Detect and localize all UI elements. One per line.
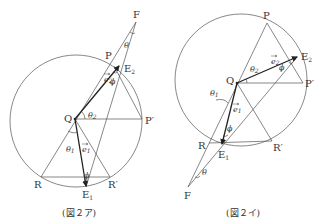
- point-q-a: [74, 118, 77, 121]
- caption-a: (図２ア): [62, 208, 96, 218]
- label-vec-e2-a: e2: [104, 75, 113, 84]
- label-e1-a: E1: [82, 189, 93, 201]
- label-p-a: P: [105, 50, 112, 61]
- label-q-a: Q: [64, 113, 72, 124]
- label-f-a: F: [133, 9, 140, 20]
- label-phi-bot-i: ϕ: [227, 124, 233, 133]
- label-r-i: R: [198, 140, 206, 151]
- label-vec-e1-i: e1: [233, 105, 242, 114]
- label-e2-a: E2: [124, 63, 135, 75]
- arc-theta2: [82, 112, 85, 119]
- label-theta2-i: θ2: [250, 65, 259, 74]
- arc-theta1: [68, 131, 77, 133]
- label-f-i: F: [184, 190, 191, 201]
- line-f-p: [188, 23, 267, 187]
- caption-i: (図２イ): [226, 208, 260, 218]
- arc-theta-f-i: [195, 176, 200, 178]
- label-theta-a: θ: [124, 41, 129, 50]
- label-r-a: R: [34, 179, 42, 190]
- label-pprime-a: P′: [145, 115, 155, 126]
- line-q-rprime-i: [237, 83, 272, 141]
- label-phi-bot-a: ϕ: [84, 171, 90, 180]
- label-e1-i: E1: [218, 149, 229, 161]
- label-q-i: Q: [226, 75, 234, 86]
- arc-theta1-i: [216, 99, 228, 103]
- label-vec-e2-i: e2: [271, 57, 280, 66]
- label-theta1-i: θ1: [210, 89, 219, 98]
- vector-e2-a: [75, 66, 119, 119]
- point-q-i: [236, 82, 239, 85]
- label-p-i: P: [263, 10, 270, 21]
- vector-overarrows: [82, 55, 277, 145]
- label-theta2-a: θ2: [88, 111, 97, 120]
- label-vec-e1-a: e1: [82, 145, 91, 154]
- figure-a: [10, 22, 142, 187]
- label-rprime-a: R′: [108, 179, 119, 190]
- diagram-canvas: F P E2 Q P′ R R′ E1 θ θ2 θ1 ϕ ϕ e2 e1 (図…: [0, 0, 322, 224]
- label-theta1-a: θ1: [66, 145, 75, 154]
- vector-e2-i: [237, 57, 297, 83]
- line-p-e2-side: [267, 23, 303, 83]
- label-theta-i: θ: [202, 168, 207, 177]
- figure-i: [175, 14, 307, 187]
- circle-i: [175, 14, 307, 146]
- label-e2-i: E2: [301, 51, 312, 63]
- label-phi-top-i: ϕ: [279, 63, 285, 72]
- label-rprime-i: R′: [273, 142, 284, 153]
- label-pprime-i: P′: [305, 78, 315, 89]
